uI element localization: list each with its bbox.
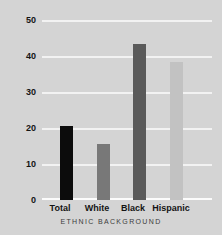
y-tick-label-10: 10 — [10, 160, 36, 169]
y-tick-label-30: 30 — [10, 88, 36, 97]
x-tick-label-total: Total — [41, 203, 79, 213]
y-tick-label-0: 0 — [10, 196, 36, 205]
bar-chart: 50 40 30 20 10 0 Total White Black Hispa… — [0, 0, 222, 235]
x-tick-label-hispanic: Hispanic — [146, 203, 196, 213]
bar-white — [97, 144, 110, 200]
x-tick-label-white: White — [78, 203, 116, 213]
bar-hispanic — [170, 62, 183, 200]
x-axis-title: ETHNIC BACKGROUND — [0, 218, 222, 226]
y-tick-label-20: 20 — [10, 124, 36, 133]
gridline-40 — [42, 56, 212, 58]
y-tick-label-40: 40 — [10, 52, 36, 61]
gridline-30 — [42, 92, 212, 94]
plot-area — [42, 20, 212, 200]
bar-black — [133, 44, 146, 200]
y-tick-label-50: 50 — [10, 16, 36, 25]
gridline-50 — [42, 20, 212, 22]
bar-total — [60, 126, 73, 200]
